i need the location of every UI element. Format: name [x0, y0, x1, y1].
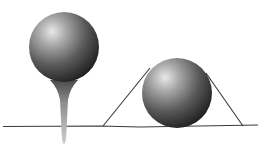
golf-ball-on-tee: [29, 12, 99, 82]
right-tangent-line: [206, 73, 243, 126]
ball-on-ground: [142, 58, 212, 128]
ground-line: [3, 125, 258, 127]
illustration-canvas: [0, 0, 262, 155]
golf-tee: [50, 80, 78, 144]
